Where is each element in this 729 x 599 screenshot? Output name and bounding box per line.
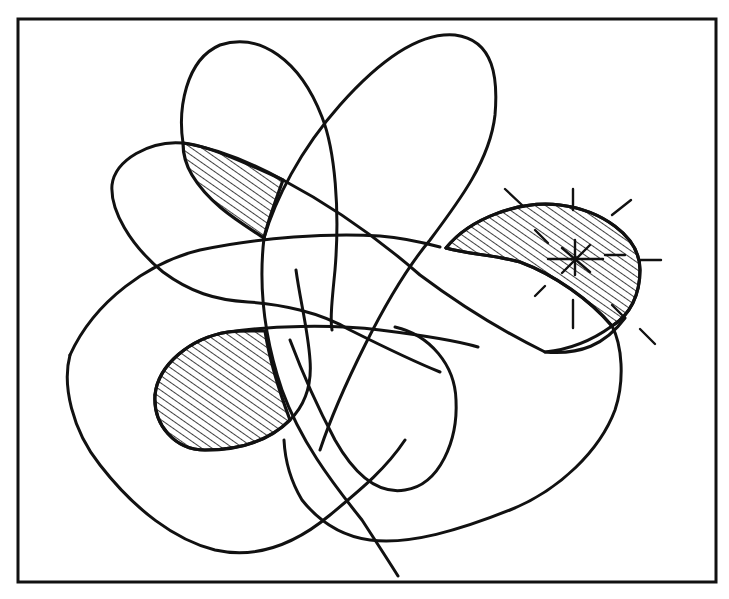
- line-drawing-canvas: [0, 0, 729, 599]
